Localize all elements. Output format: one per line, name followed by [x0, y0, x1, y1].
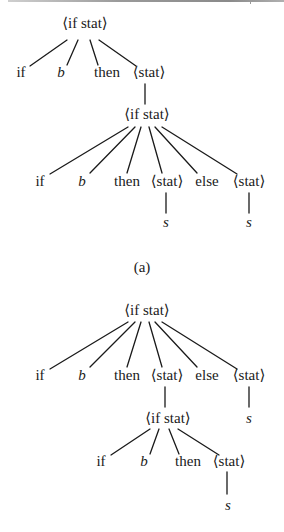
- tree-node-a-then: then: [94, 64, 120, 80]
- tree-node-b-else: else: [195, 367, 219, 383]
- tree-node-a2-else: else: [195, 173, 219, 189]
- tree-node-a-if: if: [16, 64, 25, 80]
- tree-node-a-stat: ⟨stat⟩: [133, 64, 166, 80]
- tree-edge: [178, 429, 219, 455]
- tree-edge: [99, 40, 136, 66]
- tree-node-b2-stat: ⟨stat⟩: [213, 453, 246, 469]
- tree-edge: [150, 429, 159, 454]
- tree-edge: [50, 322, 128, 369]
- tree-edge: [90, 127, 135, 173]
- tree-node-a-if2: ⟨if stat⟩: [124, 106, 169, 122]
- tree-node-a-b: b: [57, 64, 65, 80]
- tree-edge: [111, 429, 150, 455]
- tree-node-b-then: then: [114, 367, 140, 383]
- tree-node-b2-b: b: [140, 453, 148, 469]
- tree-node-a2-s2: s: [246, 214, 252, 230]
- tree-node-b2-s: s: [225, 497, 231, 513]
- tree-node-a2-if: if: [35, 173, 44, 189]
- tree-edge: [50, 127, 128, 174]
- tree-edge: [169, 429, 179, 454]
- tree-node-b-stat1: ⟨stat⟩: [151, 367, 184, 383]
- tree-node-b-root: ⟨if stat⟩: [124, 302, 169, 318]
- tree-node-a2-s1: s: [163, 214, 169, 230]
- parse-tree-b: ⟨if stat⟩ifbthen⟨stat⟩else⟨stat⟩⟨if stat…: [35, 302, 265, 513]
- tree-node-b2-then: then: [175, 453, 201, 469]
- tree-node-a2-b: b: [78, 173, 86, 189]
- tree-edge: [149, 127, 162, 173]
- tree-node-b-b: b: [78, 367, 86, 383]
- tree-node-a2-stat1: ⟨stat⟩: [151, 173, 184, 189]
- tree-edge: [90, 322, 135, 367]
- caption-a: (a): [134, 259, 151, 276]
- tree-edge: [90, 40, 98, 65]
- tree-edge: [155, 127, 197, 173]
- tree-node-b-s2: s: [246, 410, 252, 426]
- tree-edge: [67, 40, 78, 65]
- tree-node-a2-stat2: ⟨stat⟩: [233, 173, 266, 189]
- tree-edge: [162, 322, 237, 369]
- parse-tree-diagram: ⟨if stat⟩ifbthen⟨stat⟩⟨if stat⟩ifbthen⟨s…: [0, 0, 284, 532]
- tree-edge: [162, 127, 237, 174]
- parse-tree-a: ⟨if stat⟩ifbthen⟨stat⟩⟨if stat⟩ifbthen⟨s…: [16, 15, 265, 230]
- tree-node-b2-if: if: [96, 453, 105, 469]
- tree-edge: [149, 322, 162, 367]
- tree-edge: [30, 40, 67, 66]
- tree-node-a-root: ⟨if stat⟩: [62, 15, 107, 31]
- tree-node-a2-then: then: [114, 173, 140, 189]
- tree-node-b-stat2: ⟨stat⟩: [233, 367, 266, 383]
- tree-node-b-if2: ⟨if stat⟩: [145, 410, 190, 426]
- tree-node-b-if: if: [35, 367, 44, 383]
- tree-edge: [155, 322, 197, 367]
